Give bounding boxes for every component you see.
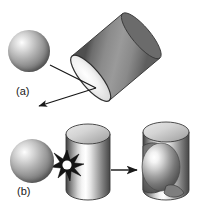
vertical-cylinder-top-face xyxy=(66,124,110,144)
starburst-core xyxy=(62,160,71,169)
panel-label-a: (a) xyxy=(16,85,29,97)
tilted-cylinder-body xyxy=(72,14,160,101)
panel-a-tilted-cylinder xyxy=(65,8,167,107)
panel-a-ricochet-direction-arrow xyxy=(39,88,96,106)
embedded-sphere xyxy=(142,143,180,191)
panel-b-cratered-cylinder xyxy=(142,122,189,200)
impact-experiment-figure: (a) (b) xyxy=(0,0,198,212)
panel-b-projectile-sphere xyxy=(10,139,54,183)
cratered-cylinder-top-face xyxy=(143,122,189,142)
panel-label-b: (b) xyxy=(17,185,30,197)
